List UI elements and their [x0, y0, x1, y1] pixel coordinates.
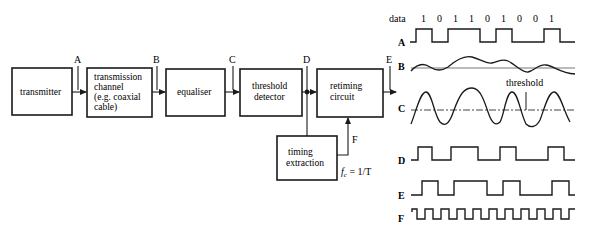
svg-text:1: 1 [501, 13, 506, 24]
waveform-f [412, 209, 575, 219]
block-diagram: transmitter transmission channel (e.g. c… [0, 0, 590, 230]
arrow-f [337, 118, 348, 155]
svg-text:1: 1 [421, 13, 426, 24]
equaliser-label: equaliser [177, 87, 212, 97]
point-c-label: C [229, 54, 236, 65]
point-e-label: E [386, 54, 392, 65]
waveform-d [411, 147, 575, 160]
waveform-c [411, 88, 570, 127]
waveform-a [410, 29, 575, 42]
svg-text:0: 0 [517, 13, 522, 24]
wave-label-e: E [398, 190, 405, 201]
svg-text:0: 0 [437, 13, 442, 24]
channel-label: transmission channel (e.g. coaxial cable… [94, 72, 144, 113]
point-a-label: A [74, 54, 82, 65]
point-b-label: B [153, 54, 160, 65]
timing-extraction-label: timing extraction [286, 147, 324, 168]
wave-label-a: A [398, 37, 406, 48]
svg-text:1: 1 [549, 13, 554, 24]
wave-label-c: C [398, 103, 405, 114]
wave-label-b: B [398, 61, 405, 72]
threshold-label: threshold [506, 77, 543, 88]
point-f-label: F [352, 134, 358, 145]
data-label: data [389, 13, 406, 24]
wave-label-d: D [398, 155, 405, 166]
data-bits: 1 0 1 1 0 1 0 0 1 [421, 13, 554, 24]
svg-text:1: 1 [469, 13, 474, 24]
wave-label-f: F [398, 213, 404, 224]
svg-text:0: 0 [533, 13, 538, 24]
clock-formula: fc = 1/T [341, 166, 371, 179]
transmitter-label: transmitter [20, 87, 62, 97]
retiming-circuit-label: retiming circuit [330, 81, 365, 102]
waveform-b [411, 57, 575, 74]
threshold-detector-label: threshold detector [252, 81, 290, 102]
point-d-label: D [303, 54, 310, 65]
svg-text:1: 1 [453, 13, 458, 24]
svg-text:0: 0 [485, 13, 490, 24]
junction-dot [305, 90, 310, 95]
waveform-e [411, 181, 575, 195]
